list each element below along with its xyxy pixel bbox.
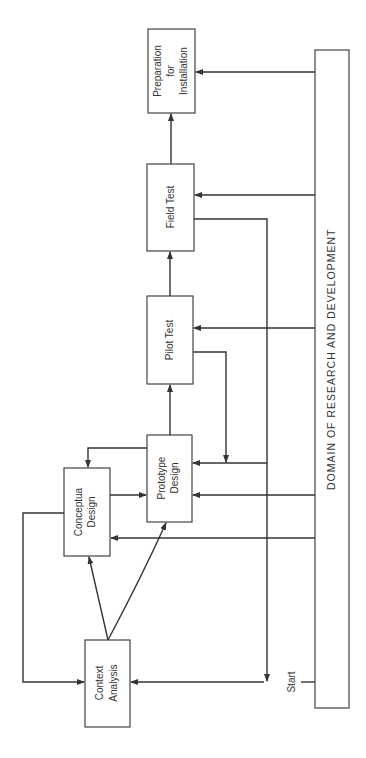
svg-text:Analysis: Analysis [108, 664, 119, 701]
box-context-analysis: Context Analysis [85, 640, 130, 727]
box-preparation: Preparation for Installation [148, 29, 195, 113]
svg-text:Design: Design [169, 462, 180, 493]
arrows-feedback [193, 219, 267, 681]
box-field-test: Field Test [147, 164, 194, 251]
domain-bar: DOMAIN OF RESEARCH AND DEVELOPMENT [315, 50, 349, 708]
start-label: Start [286, 671, 297, 692]
svg-text:Prototype: Prototype [156, 456, 167, 499]
box-pilot-test: Pilot Test [147, 296, 193, 384]
svg-text:for: for [165, 64, 176, 76]
svg-text:Pilot Test: Pilot Test [164, 320, 175, 361]
svg-text:Context: Context [94, 666, 105, 701]
box-conceptual-design: Conceptua Design [64, 468, 110, 556]
arrows-domain [111, 72, 315, 682]
box-prototype-design: Prototype Design [147, 435, 192, 522]
svg-text:Preparation: Preparation [152, 45, 163, 97]
svg-text:Design: Design [86, 496, 97, 527]
svg-text:Conceptua: Conceptua [73, 487, 84, 536]
flow-diagram: DOMAIN OF RESEARCH AND DEVELOPMENT Prepa… [0, 0, 366, 758]
svg-text:Field Test: Field Test [165, 185, 176, 228]
domain-bar-label: DOMAIN OF RESEARCH AND DEVELOPMENT [325, 228, 337, 490]
svg-text:Installation: Installation [178, 47, 189, 95]
